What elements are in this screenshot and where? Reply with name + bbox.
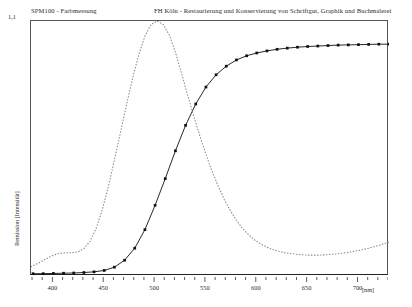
data-point-marker bbox=[72, 272, 75, 275]
x-axis-tick-label: 550 bbox=[200, 284, 210, 291]
data-point-marker bbox=[123, 259, 126, 262]
data-point-marker bbox=[154, 204, 157, 207]
x-axis-unit-label: [nm] bbox=[362, 286, 374, 293]
data-point-marker bbox=[306, 45, 309, 48]
chart-page: SPM100 - Farbmessung FH Köln - Restaurie… bbox=[0, 0, 412, 307]
data-point-marker bbox=[316, 45, 319, 48]
data-point-marker bbox=[194, 103, 197, 106]
x-axis-tick-label: 400 bbox=[48, 284, 58, 291]
data-point-marker bbox=[205, 86, 208, 89]
x-axis-tick-label: 700 bbox=[353, 284, 363, 291]
data-point-marker bbox=[337, 44, 340, 47]
data-point-marker bbox=[357, 43, 360, 46]
data-point-marker bbox=[133, 247, 136, 250]
data-point-marker bbox=[367, 43, 370, 46]
data-point-marker bbox=[388, 43, 389, 46]
data-point-marker bbox=[286, 47, 289, 50]
data-point-marker bbox=[215, 73, 218, 76]
series-line-1 bbox=[31, 21, 389, 267]
data-point-marker bbox=[245, 54, 248, 57]
data-point-marker bbox=[113, 266, 116, 269]
x-axis-tick-label: 450 bbox=[98, 284, 108, 291]
data-point-marker bbox=[93, 270, 96, 273]
data-point-marker bbox=[103, 269, 106, 272]
chart-canvas bbox=[31, 21, 389, 276]
data-point-marker bbox=[327, 44, 330, 47]
data-point-marker bbox=[276, 48, 279, 51]
data-point-marker bbox=[144, 228, 147, 231]
data-point-marker bbox=[296, 46, 299, 49]
plot-area bbox=[30, 20, 388, 275]
data-point-marker bbox=[377, 43, 380, 46]
header-title-left: SPM100 - Farbmessung bbox=[31, 7, 97, 14]
y-axis-max-label: 1,1 bbox=[8, 13, 16, 20]
x-axis-tick-label: 500 bbox=[149, 284, 159, 291]
data-point-marker bbox=[83, 271, 86, 274]
data-point-marker bbox=[235, 59, 238, 62]
data-point-marker bbox=[174, 149, 177, 152]
data-point-marker bbox=[347, 44, 350, 47]
x-axis-tick-label: 650 bbox=[302, 284, 312, 291]
x-axis: 400450500550600650700 bbox=[30, 275, 388, 305]
data-point-marker bbox=[164, 177, 167, 180]
header-title-right: FH Köln - Restaurierung und Konservierun… bbox=[154, 7, 392, 14]
data-point-marker bbox=[184, 124, 187, 127]
data-point-marker bbox=[225, 65, 228, 68]
y-axis-title: Remission [Intensität] bbox=[13, 179, 20, 259]
series-line-0 bbox=[33, 44, 389, 274]
data-point-marker bbox=[266, 50, 269, 53]
data-point-marker bbox=[255, 52, 258, 55]
x-axis-tick-label: 600 bbox=[251, 284, 261, 291]
